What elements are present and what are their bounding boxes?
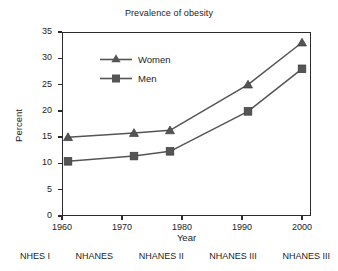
data-point-men-2000 [298,65,306,73]
legend-label-women: Women [138,54,171,65]
data-point-men-1961 [64,158,72,166]
chart-title: Prevalence of obesity [0,8,338,18]
y-tick-label: 5 [26,185,52,194]
survey-label-1: NHANES [76,251,114,261]
legend-marker-triangle [98,50,134,69]
y-tick-label: 20 [26,106,52,115]
legend-entry-men: Men [98,69,202,88]
data-point-women-2000 [297,38,306,46]
x-tick-mark [121,216,122,220]
data-point-men-1978 [166,148,174,156]
x-tick-mark [301,216,302,220]
y-tick-label: 15 [26,132,52,141]
x-tick-label: 1970 [102,223,142,232]
y-tick-label: 25 [26,80,52,89]
obesity-prevalence-figure: Prevalence of obesity Percent 0510152025… [0,0,338,271]
data-point-men-1972 [130,152,138,160]
legend-label-men: Men [138,73,156,84]
x-tick-label: 2000 [282,223,322,232]
data-point-men-1991 [244,108,252,116]
y-tick-label: 35 [26,27,52,36]
y-tick-label: 10 [26,158,52,167]
survey-labels-row: NHES INHANESNHANES IINHANES IIINHANES II… [20,251,330,261]
x-tick-mark [181,216,182,220]
y-tick-label: 30 [26,53,52,62]
x-axis-label: Year [62,232,311,243]
y-axis-label: Percent [13,94,24,158]
survey-label-4: NHANES III [282,251,330,261]
legend-entry-women: Women [98,50,202,69]
x-tick-label: 1990 [222,223,262,232]
survey-label-0: NHES I [20,251,50,261]
survey-label-3: NHANES III [209,251,257,261]
chart-legend: Women Men [98,50,202,88]
x-tick-mark [61,216,62,220]
x-tick-label: 1960 [42,223,82,232]
x-tick-label: 1980 [162,223,202,232]
survey-label-2: NHANES II [139,251,184,261]
x-tick-mark [241,216,242,220]
y-tick-label: 0 [26,211,52,220]
legend-marker-square [98,69,134,88]
